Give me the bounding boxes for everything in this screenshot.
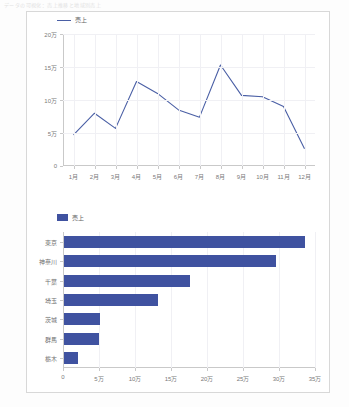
line-gridline-v [305, 34, 306, 166]
bar-y-tick-mark [60, 339, 63, 340]
line-x-tick-label: 5月 [153, 172, 162, 181]
charts-frame: 売上 05万10万15万20万1月2月3月4月5月6月7月8月9月10月11月1… [26, 11, 330, 393]
line-x-tick-label: 7月 [195, 172, 204, 181]
line-gridline-v [116, 34, 117, 166]
bar-gridline-v [279, 232, 280, 368]
bar-x-axis [63, 367, 315, 368]
line-x-tick-label: 10月 [256, 172, 269, 181]
line-x-tick-label: 8月 [216, 172, 225, 181]
bar-category-label: 東京 [27, 237, 57, 246]
line-x-tick-mark [158, 166, 159, 169]
bar-item [64, 275, 190, 287]
line-x-tick-mark [242, 166, 243, 169]
line-y-tick-label: 15万 [27, 63, 57, 72]
bar-y-tick-mark [60, 261, 63, 262]
line-x-tick-label: 4月 [132, 172, 141, 181]
bar-category-label: 神奈川 [27, 257, 57, 266]
bar-item [64, 313, 100, 325]
line-gridline-v [221, 34, 222, 166]
screenshot-root: データの可視化：売上推移と地域別売上 売上 05万10万15万20万1月2月3月… [0, 0, 349, 407]
line-y-tick-label: 0 [27, 163, 57, 169]
line-y-tick-mark [60, 34, 63, 35]
line-gridline-h [63, 67, 315, 68]
bar-item [64, 333, 99, 345]
line-x-tick-mark [137, 166, 138, 169]
line-gridline-v [242, 34, 243, 166]
bar-category-label: 千葉 [27, 276, 57, 285]
bar-x-tick-mark [315, 368, 316, 371]
bar-gridline-v [171, 232, 172, 368]
line-x-tick-label: 6月 [174, 172, 183, 181]
line-x-tick-label: 2月 [90, 172, 99, 181]
bar-x-tick-label: 10万 [129, 374, 142, 383]
bar-legend-swatch-icon [57, 214, 68, 221]
bar-x-tick-mark [207, 368, 208, 371]
bar-y-tick-mark [60, 358, 63, 359]
line-x-tick-mark [179, 166, 180, 169]
bar-chart-legend: 売上 [57, 214, 84, 221]
line-x-tick-mark [95, 166, 96, 169]
line-gridline-h [63, 34, 315, 35]
bar-x-tick-mark [279, 368, 280, 371]
line-gridline-v [95, 34, 96, 166]
bar-x-tick-mark [99, 368, 100, 371]
bar-x-tick-label: 15万 [165, 374, 178, 383]
bar-y-tick-mark [60, 242, 63, 243]
line-gridline-v [200, 34, 201, 166]
bar-item [64, 255, 276, 267]
line-x-tick-label: 9月 [237, 172, 246, 181]
line-chart-legend: 売上 [57, 17, 87, 23]
bar-y-tick-mark [60, 319, 63, 320]
bar-category-label: 茨城 [27, 315, 57, 324]
bar-category-label: 埼玉 [27, 296, 57, 305]
bar-chart: 売上 05万10万15万20万25万30万35万東京神奈川千葉埼玉茨城群馬栃木 [27, 208, 329, 393]
bar-x-tick-label: 30万 [273, 374, 286, 383]
bar-x-tick-mark [171, 368, 172, 371]
line-x-tick-mark [200, 166, 201, 169]
line-x-tick-mark [305, 166, 306, 169]
top-caption-text: データの可視化：売上推移と地域別売上 [0, 0, 349, 10]
line-x-tick-label: 12月 [298, 172, 311, 181]
line-x-tick-label: 1月 [69, 172, 78, 181]
line-legend-swatch-icon [57, 20, 71, 21]
line-y-tick-mark [60, 100, 63, 101]
line-y-tick-label: 10万 [27, 96, 57, 105]
line-gridline-v [263, 34, 264, 166]
line-gridline-v [284, 34, 285, 166]
bar-x-tick-label: 0 [61, 374, 64, 380]
bar-item [64, 294, 158, 306]
bar-gridline-v [207, 232, 208, 368]
line-x-tick-label: 3月 [111, 172, 120, 181]
bar-category-label: 栃木 [27, 354, 57, 363]
bar-x-tick-label: 5万 [94, 374, 103, 383]
line-legend-label: 売上 [75, 17, 87, 23]
line-y-tick-label: 5万 [27, 129, 57, 138]
line-gridline-v [137, 34, 138, 166]
line-x-tick-mark [74, 166, 75, 169]
bar-gridline-v [243, 232, 244, 368]
line-x-tick-mark [116, 166, 117, 169]
line-gridline-v [158, 34, 159, 166]
line-y-tick-mark [60, 67, 63, 68]
line-x-tick-mark [263, 166, 264, 169]
bar-y-tick-mark [60, 300, 63, 301]
bar-x-tick-label: 20万 [201, 374, 214, 383]
line-gridline-h [63, 100, 315, 101]
line-y-tick-mark [60, 133, 63, 134]
bar-category-label: 群馬 [27, 334, 57, 343]
bar-x-tick-label: 35万 [309, 374, 322, 383]
line-x-tick-mark [221, 166, 222, 169]
line-gridline-h [63, 133, 315, 134]
bar-item [64, 236, 305, 248]
line-chart: 売上 05万10万15万20万1月2月3月4月5月6月7月8月9月10月11月1… [27, 12, 329, 197]
bar-legend-label: 売上 [72, 215, 84, 221]
bar-x-tick-label: 25万 [237, 374, 250, 383]
line-y-tick-mark [60, 166, 63, 167]
line-gridline-v [179, 34, 180, 166]
line-x-tick-label: 11月 [277, 172, 289, 181]
bar-gridline-v [315, 232, 316, 368]
bar-x-tick-mark [243, 368, 244, 371]
bar-plot-area [63, 232, 315, 368]
bar-item [64, 352, 78, 364]
line-plot-area [63, 34, 315, 166]
